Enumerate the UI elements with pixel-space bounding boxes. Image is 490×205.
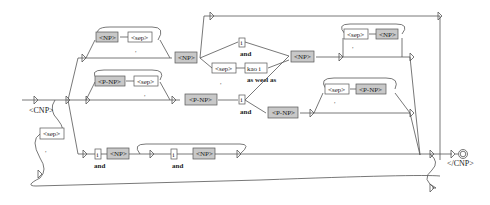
edge: [300, 113, 420, 155]
node-label: <sep>: [215, 65, 232, 73]
node-label: <P-NP>: [98, 78, 121, 86]
node-output: ,: [45, 147, 47, 153]
node-label: <P-NP>: [189, 96, 212, 104]
node-label: <NP>: [196, 150, 213, 158]
node-label: i: [173, 151, 175, 159]
node-label: <NP>: [294, 53, 311, 61]
node-label: <sep>: [43, 130, 60, 138]
node-output: ,: [220, 79, 222, 85]
initial-state-label: <CNP>: [29, 106, 54, 115]
node-output: ,: [352, 43, 354, 49]
node-label: <sep>: [137, 78, 154, 86]
node-label: <sep>: [347, 31, 364, 39]
node-output: and: [172, 162, 183, 170]
node-label: i: [241, 39, 243, 47]
node-label: <NP>: [178, 54, 195, 62]
loop-edge: [31, 134, 440, 186]
node-output: and: [240, 108, 251, 116]
edge: [86, 40, 170, 58]
node-output: and: [94, 162, 105, 170]
final-state-inner-icon: [460, 151, 466, 157]
node-label: i: [241, 96, 243, 104]
edge: [314, 93, 410, 113]
node-output: and: [240, 50, 251, 58]
node-label: <P-NP>: [272, 109, 295, 117]
node-label: kao i: [247, 65, 261, 73]
node-label: <NP>: [110, 150, 127, 158]
edge: [200, 16, 440, 160]
node-output: ,: [334, 98, 336, 104]
grammar-graph: <NP> <sep> , <NP> i and <sep> , kao i as…: [0, 0, 490, 205]
loop-edge: [137, 144, 246, 154]
node-label: <sep>: [131, 34, 148, 42]
node-label: i: [97, 151, 99, 159]
node-label: <sep>: [328, 86, 345, 94]
final-state-label: </CNP>: [447, 159, 474, 168]
node-output: ,: [144, 91, 146, 97]
node-label: <NP>: [99, 34, 116, 42]
node-label: <NP>: [379, 31, 396, 39]
edge: [427, 154, 436, 188]
node-output: ,: [135, 47, 137, 53]
node-label: <P-NP>: [359, 86, 382, 94]
